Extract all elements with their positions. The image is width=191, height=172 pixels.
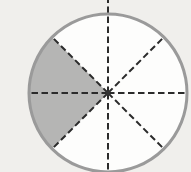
fraction-circle-diagram: [0, 0, 191, 172]
figure-canvas: [0, 0, 191, 172]
center-dot: [106, 91, 111, 96]
